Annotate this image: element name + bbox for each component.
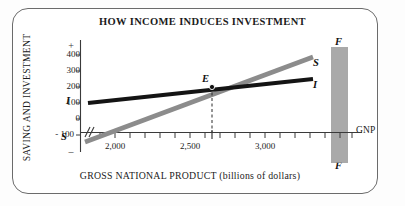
equilibrium-point-marker <box>209 84 214 89</box>
full-employment-band <box>331 47 348 163</box>
plot-area <box>0 0 405 206</box>
chart-figure: HOW INCOME INDUCES INVESTMENT SAVING AND… <box>0 0 405 206</box>
